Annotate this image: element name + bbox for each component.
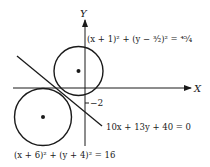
lower-circle-equation: (x + 6)² + (y + 4)² = 16 [14,150,115,160]
upper-circle-equation: (x + 1)² + (y − ³⁄₂)² = ⁴⁵⁄₄ [87,34,193,44]
upper-circle-center [77,69,81,73]
y-tick-label: −2 [90,98,103,108]
x-axis-label: X [193,83,202,94]
y-axis-label: Y [80,8,88,19]
diagram-canvas: X Y −2 (x + 1)² + (y − ³⁄₂)² = ⁴⁵⁄₄ (x +… [0,0,210,167]
lower-circle-center [41,115,45,119]
tangent-line-equation: 10x + 13y + 40 = 0 [106,122,191,132]
